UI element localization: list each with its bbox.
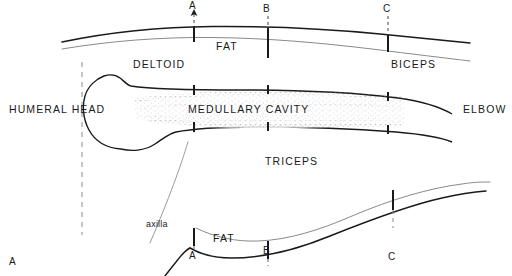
label-medullary-cavity: MEDULLARY CAVITY <box>188 103 309 115</box>
marker-label-b-bottom: B <box>263 245 270 256</box>
marker-label-c-top: C <box>383 3 390 14</box>
marker-label-a-bottom: A <box>189 250 196 261</box>
body-wall-contour <box>165 248 190 276</box>
label-fat-upper: FAT <box>216 40 238 52</box>
label-elbow: ELBOW <box>463 103 506 115</box>
label-deltoid: DELTOID <box>133 58 185 70</box>
label-humeral-head: HUMERAL HEAD <box>9 103 105 115</box>
skin-contour-lower <box>190 191 486 258</box>
label-axilla: axilla <box>146 219 168 229</box>
marker-label-a-top: A <box>189 0 196 11</box>
skin-contour-upper <box>62 26 470 43</box>
label-triceps: TRICEPS <box>265 155 318 167</box>
marker-label-b-top: B <box>263 3 270 14</box>
label-fat-lower: FAT <box>213 232 235 244</box>
figure-canvas: FAT DELTOID BICEPS HUMERAL HEAD MEDULLAR… <box>0 0 512 276</box>
marker-label-c-bottom: C <box>388 251 395 262</box>
label-biceps: BICEPS <box>391 58 436 70</box>
panel-label-a: A <box>9 256 16 267</box>
fascia-contour-lower <box>196 182 490 241</box>
humerus-lower-cortex <box>121 127 452 150</box>
anatomy-diagram <box>0 0 512 276</box>
